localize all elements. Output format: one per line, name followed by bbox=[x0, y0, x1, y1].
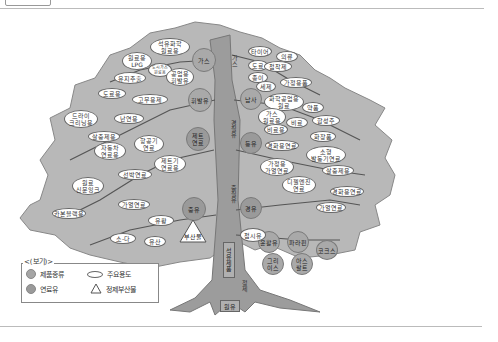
usage-tire: 타이어 bbox=[248, 46, 272, 57]
usage-medicine: 약품 bbox=[302, 102, 324, 113]
usage-sulfur: 유황 bbox=[148, 215, 174, 226]
circle-icon bbox=[26, 284, 36, 294]
byproduct-label: 부산물 bbox=[180, 232, 206, 241]
legend-item-byproduct: 정제부산물 bbox=[90, 283, 136, 294]
oval-icon bbox=[87, 271, 103, 278]
trunk-label-heavy: 중질유 bbox=[229, 185, 238, 203]
product-gas: 가스 bbox=[192, 48, 216, 72]
bottom-divider bbox=[0, 326, 482, 327]
usage-home-heating: 가정용 가열연료 bbox=[260, 158, 294, 176]
usage-adhesive: 접착제 bbox=[264, 61, 292, 72]
usage-fertilizer: 비료 bbox=[286, 117, 308, 128]
usage-heating: 난연용 bbox=[114, 113, 144, 124]
usage-jet-fuel: 제트기 연료용 bbox=[154, 155, 186, 173]
usage-soda: 소-다 bbox=[110, 233, 136, 244]
trunk-label-light: 경질유 bbox=[229, 120, 238, 138]
usage-petchem: 석유화학 원료용 bbox=[150, 38, 190, 56]
usage-heating-fuel-4: 가열연료 bbox=[316, 202, 346, 213]
product-coke: 코크스 bbox=[316, 240, 338, 260]
legend-label: 연료유 bbox=[40, 284, 58, 294]
usage-oil-extract: 유지추출 bbox=[114, 72, 146, 84]
product-jet-fuel: 제트 연료 bbox=[186, 127, 210, 151]
usage-industrial-gasoline: 공업용 휘발유 bbox=[166, 68, 194, 86]
usage-insecticide-2: 살충제용 bbox=[322, 165, 354, 176]
usage-dry-cleaning: 드라이 크리닝용 bbox=[64, 110, 98, 128]
usage-dish-oil: 접시유 bbox=[240, 228, 266, 242]
usage-ship-fuel: 선박연료 bbox=[118, 169, 152, 180]
product-paraffin: 파라핀 bbox=[287, 231, 309, 253]
product-kerosene: 등유 bbox=[240, 132, 262, 154]
crude-oil-box: 원유 bbox=[220, 300, 240, 312]
usage-household: 가정용품 bbox=[280, 77, 312, 88]
legend-item-product-type: 제품종류 bbox=[26, 269, 64, 279]
usage-fertilizer-raw: 비료용 bbox=[264, 124, 288, 135]
usage-paint-solvent: 도료용 bbox=[98, 88, 126, 99]
usage-carbon-black: 카본블랙용 bbox=[52, 208, 86, 219]
refined-products-box: 석유제품 bbox=[223, 242, 235, 278]
legend-label: 주요용도 bbox=[107, 269, 131, 279]
legend-item-main-use: 주요용도 bbox=[87, 269, 131, 279]
usage-rubber-solvent: 고무용제 bbox=[132, 94, 168, 105]
usage-synthetic: 합성주 bbox=[312, 115, 340, 126]
usage-detergent: 세제 bbox=[256, 81, 276, 92]
usage-heating-fuel: 가열연료 bbox=[118, 199, 150, 210]
trunk-label-gas: 가스 bbox=[230, 55, 239, 67]
product-naphtha: 납사 bbox=[240, 88, 262, 110]
usage-heating-fuel-3: 경화용연료 bbox=[330, 186, 364, 197]
usage-aircraft-fuel: 항공기 연료 bbox=[134, 135, 164, 153]
usage-heating-fuel-2: 경화용연료 bbox=[265, 140, 299, 151]
usage-small-engine: 소형 발동기연료 bbox=[306, 146, 346, 164]
usage-insecticide: 살충제용 bbox=[88, 131, 120, 142]
legend-label: 제품종류 bbox=[40, 269, 64, 279]
product-grease: 그리 이스 bbox=[262, 253, 284, 275]
usage-diesel-engine: 디젤엔진 연료 bbox=[282, 176, 316, 194]
usage-cosmetics: 화장품 bbox=[310, 131, 336, 142]
usage-newsprint-ink: 원료 신문잉크 bbox=[72, 177, 104, 195]
legend-label: 정제부산물 bbox=[106, 284, 136, 294]
circle-icon bbox=[26, 269, 36, 279]
product-asphalt: 아스 팔트 bbox=[291, 253, 313, 275]
legend-item-fuel-oil: 연료유 bbox=[26, 284, 58, 294]
triangle-icon bbox=[90, 283, 102, 294]
usage-car-fuel: 자동차 연료용 bbox=[94, 142, 126, 160]
legend-title: <(보기)> bbox=[23, 256, 54, 266]
usage-sulfuric-acid: 유산 bbox=[144, 236, 166, 247]
process-label: 정제 bbox=[240, 280, 249, 292]
product-gasoline: 휘발유 bbox=[188, 88, 212, 112]
product-diesel: 경유 bbox=[240, 197, 262, 219]
